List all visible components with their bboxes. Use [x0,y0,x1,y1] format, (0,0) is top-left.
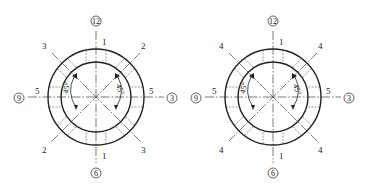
svg-text:12: 12 [92,17,100,26]
diagonal-label-bottom-right: 3 [141,145,146,155]
axis-label-left: 5 [212,86,217,96]
svg-text:9: 9 [194,94,198,103]
svg-text:6: 6 [271,169,275,178]
axis-label-top: 1 [102,37,107,47]
diagonal-label-bottom-left: 2 [42,145,47,155]
clock-3: 3 [344,93,354,103]
diagonal-label-top-right: 4 [318,41,323,51]
angle-label-left: 45° [238,82,249,95]
angle-arc-left [71,73,78,110]
clock-6: 6 [91,168,101,178]
clock-6: 6 [268,168,278,178]
axis-label-top: 1 [279,37,284,47]
diagonal-label-top-left: 4 [219,41,224,51]
angle-arc-left [248,73,255,110]
svg-text:12: 12 [269,17,277,26]
axis-label-right: 5 [149,86,154,96]
axis-label-bottom: 1 [102,151,107,161]
svg-text:6: 6 [94,169,98,178]
diagram-left: 45° 45° 1 1 5 5 3 2 2 3 12 6 9 3 [14,16,177,178]
angle-label-right: 45° [114,83,126,97]
clock-9: 9 [14,93,24,103]
diagonal-label-top-left: 3 [42,41,47,51]
axis-label-left: 5 [35,86,40,96]
svg-text:3: 3 [170,94,174,103]
svg-text:9: 9 [17,94,21,103]
angle-label-left: 45° [61,82,72,95]
clock-12: 12 [268,16,278,26]
diagram-right: 45° 45° 1 1 5 5 4 4 4 4 12 6 9 3 [191,16,354,178]
diagonal-label-bottom-left: 4 [219,145,224,155]
clock-9: 9 [191,93,201,103]
diagonal-label-top-right: 2 [141,41,146,51]
angle-label-right: 45° [291,83,303,97]
clock-12: 12 [91,16,101,26]
diagonal-label-bottom-right: 4 [318,145,323,155]
clock-3: 3 [167,93,177,103]
axis-label-right: 5 [326,86,331,96]
weld-position-diagrams: 45° 45° 1 1 5 5 3 2 2 3 12 6 9 3 [0,0,367,189]
axis-label-bottom: 1 [279,151,284,161]
svg-text:3: 3 [347,94,351,103]
